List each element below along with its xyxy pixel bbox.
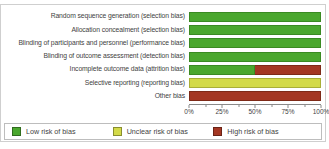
bar-segment-unclear [189, 78, 321, 88]
category-label: Blinding of outcome assessment (detectio… [1, 53, 189, 60]
bar-segment-low [189, 38, 321, 48]
legend-label-high: High risk of bias [227, 128, 278, 135]
bar-segment-low [189, 12, 321, 22]
chart-row: Selective reporting (reporting bias) [1, 76, 325, 89]
x-axis: 0%25%50%75%100% [189, 104, 321, 118]
bar-track [189, 78, 321, 88]
x-axis-minor-tick [238, 105, 239, 107]
category-label: Allocation concealment (selection bias) [1, 27, 189, 34]
bar-segment-low [189, 25, 321, 35]
chart-row: Allocation concealment (selection bias) [1, 23, 325, 36]
bar-track [189, 91, 321, 101]
legend-item-unclear: Unclear risk of bias [113, 127, 214, 136]
legend-swatch-high [213, 127, 222, 136]
x-axis-tick-label: 25% [215, 109, 228, 116]
bar-segment-high [189, 91, 321, 101]
chart-legend: Low risk of biasUnclear risk of biasHigh… [4, 123, 322, 140]
category-label: Random sequence generation (selection bi… [1, 13, 189, 20]
chart-row: Incomplete outcome data (attrition bias) [1, 63, 325, 76]
x-axis-tick-label: 50% [248, 109, 261, 116]
bar-segment-low [189, 65, 255, 75]
x-axis-tick-label: 0% [184, 109, 193, 116]
x-axis-minor-tick [304, 105, 305, 107]
chart-row: Random sequence generation (selection bi… [1, 10, 325, 23]
legend-swatch-unclear [113, 127, 122, 136]
category-label: Other bias [1, 93, 189, 100]
bar-track [189, 12, 321, 22]
bar-segment-low [189, 52, 321, 62]
legend-label-low: Low risk of bias [26, 128, 76, 135]
bar-track [189, 38, 321, 48]
x-axis-tick-label: 75% [281, 109, 294, 116]
chart-row: Blinding of participants and personnel (… [1, 37, 325, 50]
category-label: Selective reporting (reporting bias) [1, 80, 189, 87]
category-label: Blinding of participants and personnel (… [1, 40, 189, 47]
legend-item-high: High risk of bias [213, 127, 314, 136]
risk-of-bias-figure: Random sequence generation (selection bi… [0, 4, 326, 142]
legend-swatch-low [12, 127, 21, 136]
x-axis-minor-tick [205, 105, 206, 107]
risk-of-bias-chart: Random sequence generation (selection bi… [1, 10, 325, 103]
chart-row: Blinding of outcome assessment (detectio… [1, 50, 325, 63]
bar-track [189, 52, 321, 62]
chart-row: Other bias [1, 90, 325, 103]
legend-label-unclear: Unclear risk of bias [127, 128, 188, 135]
bar-track [189, 65, 321, 75]
legend-item-low: Low risk of bias [12, 127, 113, 136]
bar-track [189, 25, 321, 35]
category-label: Incomplete outcome data (attrition bias) [1, 66, 189, 73]
bar-segment-high [255, 65, 321, 75]
x-axis-tick-label: 100% [313, 109, 329, 116]
x-axis-minor-tick [271, 105, 272, 107]
